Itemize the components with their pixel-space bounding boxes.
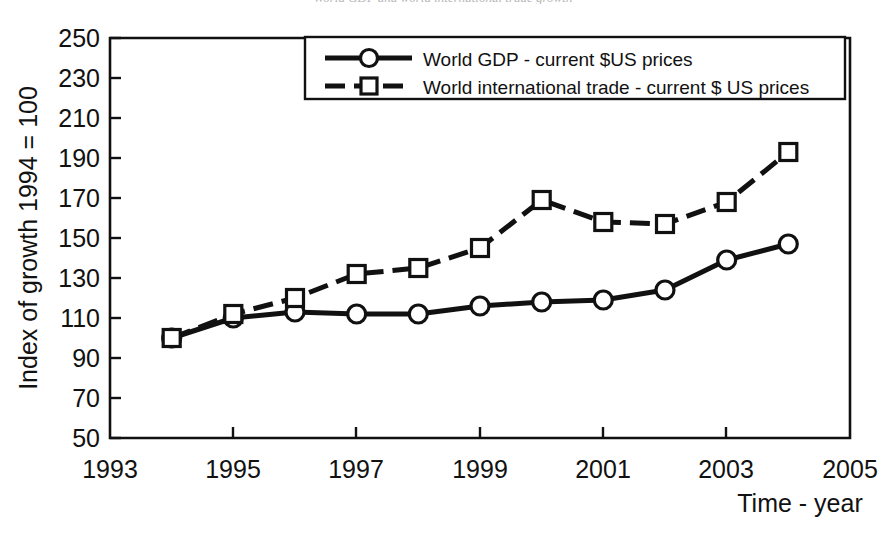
y-tick-label: 150 — [58, 224, 100, 252]
y-tick-label: 110 — [60, 304, 100, 332]
y-tick-label: 70 — [72, 384, 100, 412]
x-tick-label: 2003 — [698, 455, 754, 483]
data-point-square[interactable] — [718, 194, 735, 211]
y-tick-label: 190 — [58, 144, 100, 172]
x-axis-tick-labels: 1993 1995 1997 1999 2001 2003 2005 — [82, 455, 878, 483]
data-series-layer — [163, 144, 798, 348]
chart-figure: World GDP and world international trade … — [0, 0, 886, 536]
x-axis-title: Time - year — [737, 489, 862, 517]
data-point-square[interactable] — [410, 260, 427, 277]
data-point-circle[interactable] — [656, 281, 674, 299]
y-axis-tick-labels: 250 230 210 190 170 150 130 110 90 70 50 — [58, 24, 100, 452]
y-tick-label: 90 — [72, 344, 100, 372]
legend-label-gdp: World GDP - current $US prices — [423, 49, 693, 70]
y-tick-label: 50 — [72, 424, 100, 452]
x-tick-label: 1997 — [328, 455, 384, 483]
x-tick-label: 1999 — [452, 455, 508, 483]
series-line — [172, 244, 789, 338]
x-tick-label: 1995 — [205, 455, 261, 483]
x-tick-label: 2001 — [575, 455, 631, 483]
circle-marker-icon — [361, 50, 378, 67]
legend-label-trade: World international trade - current $ US… — [423, 77, 809, 98]
y-tick-label: 210 — [58, 104, 100, 132]
y-tick-label: 250 — [58, 24, 100, 52]
chart-legend: World GDP - current $US prices World int… — [305, 37, 845, 99]
data-point-circle[interactable] — [594, 291, 612, 309]
data-point-circle[interactable] — [533, 293, 551, 311]
data-point-square[interactable] — [348, 266, 365, 283]
y-axis-title: Index of growth 1994 = 100 — [14, 86, 42, 390]
data-point-square[interactable] — [657, 216, 674, 233]
line-chart-plot: 250 230 210 190 170 150 130 110 90 70 50… — [0, 0, 886, 536]
square-marker-icon — [361, 78, 377, 94]
data-point-square[interactable] — [225, 306, 242, 323]
data-point-square[interactable] — [780, 144, 797, 161]
x-tick-label: 1993 — [82, 455, 138, 483]
x-axis-ticks — [233, 427, 726, 438]
data-point-circle[interactable] — [718, 251, 736, 269]
data-point-circle[interactable] — [471, 297, 489, 315]
data-point-square[interactable] — [533, 192, 550, 209]
data-point-square[interactable] — [472, 240, 489, 257]
data-point-circle[interactable] — [779, 235, 797, 253]
data-point-square[interactable] — [287, 290, 304, 307]
data-point-circle[interactable] — [348, 305, 366, 323]
x-tick-label: 2005 — [822, 455, 878, 483]
data-point-circle[interactable] — [409, 305, 427, 323]
data-point-square[interactable] — [595, 214, 612, 231]
y-tick-label: 230 — [58, 64, 100, 92]
data-point-square[interactable] — [163, 330, 180, 347]
y-tick-label: 130 — [58, 264, 100, 292]
y-tick-label: 170 — [58, 184, 100, 212]
y-axis-ticks — [110, 38, 121, 438]
